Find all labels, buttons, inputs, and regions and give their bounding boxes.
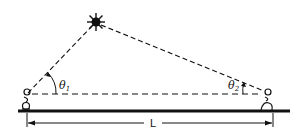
diagram-canvas: θ1 θ2 L — [0, 0, 294, 135]
sight-line-right — [101, 25, 264, 91]
star-icon — [87, 13, 105, 31]
observer-right-icon — [261, 89, 272, 110]
dim-arrow-right-icon — [265, 121, 272, 126]
theta2-label: θ2 — [228, 79, 240, 93]
theta2-arrow-icon — [241, 82, 246, 87]
triangulation-diagram: θ1 θ2 L — [0, 0, 294, 135]
theta1-label: θ1 — [59, 79, 70, 93]
distance-label: L — [150, 117, 156, 129]
dim-arrow-left-icon — [28, 121, 35, 126]
